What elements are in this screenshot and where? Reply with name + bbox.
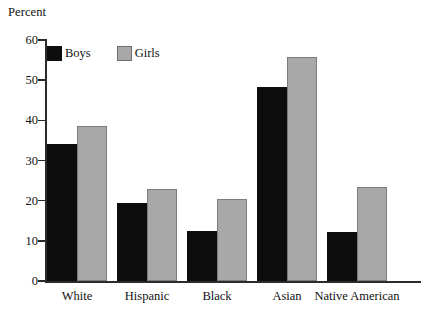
y-axis-tick-label: 50 xyxy=(4,74,38,87)
black-square-swatch xyxy=(47,46,62,61)
y-axis-tick-label: 30 xyxy=(4,155,38,168)
y-axis-tick-label: 40 xyxy=(4,114,38,127)
x-axis-label-native-american: Native American xyxy=(314,289,399,303)
bar-hispanic-boys xyxy=(117,203,147,281)
y-axis-tick-mark xyxy=(38,79,46,80)
legend-label-boys: Boys xyxy=(65,47,91,60)
bar-white-boys xyxy=(47,144,77,281)
gray-square-swatch xyxy=(117,46,132,61)
bar-chart: Percent 0102030405060 WhiteHispanicBlack… xyxy=(0,0,432,317)
x-axis-label-black: Black xyxy=(202,289,231,303)
x-axis-label-hispanic: Hispanic xyxy=(125,289,169,303)
bar-native-american-girls xyxy=(357,187,387,281)
y-axis-title: Percent xyxy=(8,5,46,19)
x-axis-line xyxy=(45,281,421,283)
y-axis-tick-mark xyxy=(38,280,46,281)
plot-area xyxy=(47,40,420,281)
bar-black-girls xyxy=(217,199,247,281)
bar-white-girls xyxy=(77,126,107,281)
legend-item-girls: Girls xyxy=(117,46,186,61)
bar-native-american-boys xyxy=(327,232,357,281)
bar-black-boys xyxy=(187,231,217,281)
chart-legend: BoysGirls xyxy=(47,46,186,61)
bar-asian-girls xyxy=(287,57,317,281)
y-axis-tick-mark xyxy=(38,160,46,161)
legend-item-boys: Boys xyxy=(47,46,117,61)
x-axis-label-asian: Asian xyxy=(272,289,301,303)
y-axis-tick-label: 0 xyxy=(4,275,38,288)
y-axis-tick-mark xyxy=(38,120,46,121)
x-axis-label-white: White xyxy=(62,289,93,303)
y-axis-tick-label: 60 xyxy=(4,34,38,47)
legend-label-girls: Girls xyxy=(135,47,160,60)
y-axis-tick-label: 20 xyxy=(4,195,38,208)
y-axis-tick-label: 10 xyxy=(4,235,38,248)
bar-hispanic-girls xyxy=(147,189,177,281)
y-axis-tick-mark xyxy=(38,240,46,241)
y-axis-tick-mark xyxy=(38,200,46,201)
y-axis-tick-mark xyxy=(38,39,46,40)
bar-asian-boys xyxy=(257,87,287,281)
